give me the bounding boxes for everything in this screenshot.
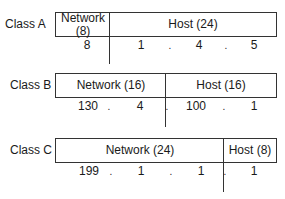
- class-a-host-field: Host (24): [110, 13, 276, 36]
- class-c-dot-2: .: [170, 166, 173, 177]
- class-c-octet-1: 199: [79, 164, 99, 178]
- class-a-network-label-line1: Network: [61, 12, 105, 25]
- class-c-dot-3: .: [224, 166, 227, 177]
- class-c-network-field: Network (24): [56, 139, 224, 162]
- class-a-label: Class A: [5, 17, 46, 31]
- class-a-octet-4: 5: [251, 38, 258, 52]
- class-b-dot-3: .: [223, 101, 226, 112]
- class-c-label: Class C: [10, 143, 52, 157]
- class-b-network-field: Network (16): [56, 74, 166, 97]
- class-b-dot-2: .: [166, 101, 169, 112]
- class-a-dot-2: .: [169, 40, 172, 51]
- class-b-octet-4: 1: [251, 99, 258, 113]
- class-b-label: Class B: [10, 78, 51, 92]
- class-b-octet-3: 100: [186, 99, 206, 113]
- class-b-dot-1: .: [108, 101, 111, 112]
- class-a-dot-3: .: [225, 40, 228, 51]
- class-c-boundary-line: [223, 138, 224, 192]
- class-a-address-box: Network (8) Host (24): [55, 12, 277, 37]
- class-c-dot-1: .: [110, 166, 113, 177]
- class-c-octet-2: 1: [138, 164, 145, 178]
- class-a-octet-3: 4: [196, 38, 203, 52]
- class-c-host-field: Host (8): [224, 139, 276, 162]
- class-c-octet-4: 1: [251, 164, 258, 178]
- class-b-address-box: Network (16) Host (16): [55, 73, 277, 98]
- class-a-boundary-line: [109, 12, 110, 64]
- class-b-octet-1: 130: [78, 99, 98, 113]
- class-c-address-box: Network (24) Host (8): [55, 138, 277, 163]
- class-c-octet-3: 1: [198, 164, 205, 178]
- class-a-octet-1: 8: [84, 38, 91, 52]
- class-b-boundary-line: [165, 73, 166, 127]
- class-a-network-label-line2: (8): [76, 25, 91, 38]
- class-b-host-field: Host (16): [166, 74, 276, 97]
- class-a-network-field: Network (8): [56, 13, 110, 36]
- class-b-octet-2: 4: [137, 99, 144, 113]
- class-a-octet-2: 1: [138, 38, 145, 52]
